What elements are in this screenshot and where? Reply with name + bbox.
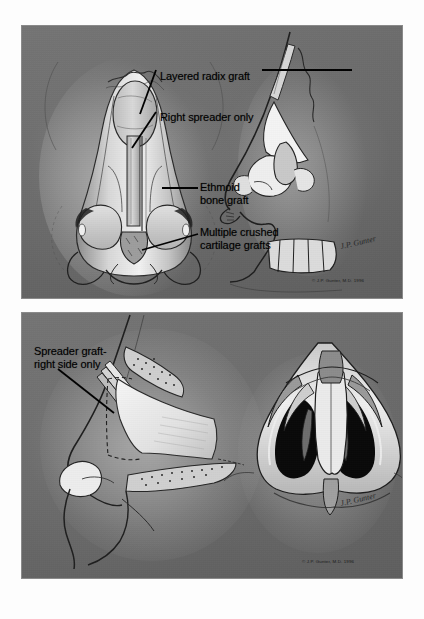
callout-spreader-graft-right-side-only: Spreader graft- right side only [34, 345, 106, 370]
spreader-graft-shape [127, 136, 140, 226]
callout-ethmoid-bone-graft: Ethmoid bone graft [200, 181, 249, 206]
copyright-notice: © J.P. Gunter, M.D. 1996 [302, 559, 354, 564]
callout-multiple-crushed-cartilage-grafts: Multiple crushed cartilage grafts [200, 226, 279, 251]
upper-figure-panel: Layered radix graft Right spreader only … [22, 26, 402, 298]
figure-page: Layered radix graft Right spreader only … [0, 0, 424, 619]
lower-figure-panel: Spreader graft- right side only J.P. Gun… [22, 313, 402, 578]
callout-layered-radix-graft: Layered radix graft [160, 70, 250, 83]
callout-right-spreader-only: Right spreader only [160, 111, 254, 124]
upper-panel-illustration [22, 26, 402, 298]
copyright-notice: © J.P. Gunter, M.D. 1996 [312, 278, 364, 283]
